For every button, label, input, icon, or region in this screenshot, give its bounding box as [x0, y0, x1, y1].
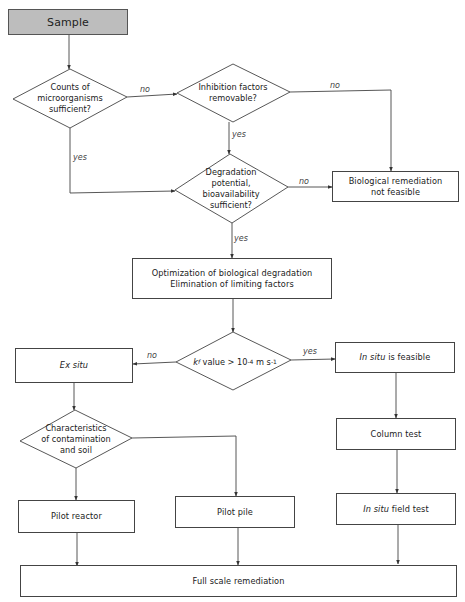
optimization-line-2: Elimination of limiting factors [170, 279, 294, 290]
degradation-line-2: potential, [211, 178, 250, 189]
kvalue-no-label: no [147, 351, 157, 360]
pilot-pile-node: Pilot pile [175, 496, 295, 528]
degradation-line-4: sufficient? [210, 200, 252, 211]
sample-label: Sample [47, 17, 89, 28]
in-situ-node: In situ is feasible [335, 342, 455, 373]
in-situ-label-rest: is feasible [385, 352, 430, 363]
degradation-text: Degradation potential, bioavailability s… [181, 164, 281, 214]
not-feasible-node: Biological remediation not feasible [332, 171, 459, 202]
sample-node: Sample [8, 9, 128, 35]
inhibition-line-2: removable? [209, 93, 257, 104]
degradation-no-label: no [299, 177, 309, 186]
counts-line-1: Counts of [50, 82, 89, 93]
counts-line-3: sufficient? [49, 104, 91, 115]
characteristics-line-1: Characteristics [45, 423, 106, 434]
optimization-line-1: Optimization of biological degradation [152, 268, 313, 279]
counts-no-label: no [140, 85, 150, 94]
characteristics-line-2: of contamination [41, 434, 111, 445]
inhibition-text: Inhibition factors removable? [183, 78, 283, 108]
field-test-label-italic: In situ [363, 504, 389, 515]
degradation-line-1: Degradation [206, 167, 257, 178]
kvalue-yes-label: yes [303, 347, 317, 356]
column-test-label: Column test [371, 429, 422, 440]
inhibition-no-label: no [330, 81, 340, 90]
kvalue-text-main: value > 10 [200, 357, 247, 368]
ex-situ-node: Ex situ [15, 348, 133, 383]
counts-yes-label: yes [73, 153, 87, 162]
not-feasible-line-1: Biological remediation [349, 176, 443, 187]
kvalue-text: kf value > 10-4 m s-1 [180, 354, 290, 370]
pilot-pile-label: Pilot pile [217, 507, 253, 518]
counts-text: Counts of microorganisms sufficient? [20, 78, 120, 118]
ex-situ-label: Ex situ [60, 360, 88, 371]
inhibition-yes-label: yes [232, 130, 246, 139]
column-test-node: Column test [336, 418, 456, 450]
field-test-label-rest: field test [389, 504, 429, 515]
optimization-node: Optimization of biological degradation E… [132, 258, 332, 299]
pilot-reactor-node: Pilot reactor [18, 500, 135, 533]
degradation-yes-label: yes [234, 234, 248, 243]
full-scale-label: Full scale remediation [193, 576, 285, 587]
full-scale-node: Full scale remediation [20, 565, 457, 597]
characteristics-text: Characteristics of contamination and soi… [26, 420, 126, 458]
not-feasible-line-2: not feasible [371, 187, 420, 198]
in-situ-label-italic: In situ [360, 352, 386, 363]
field-test-node: In situ field test [336, 493, 456, 525]
kvalue-unit: m s [253, 357, 270, 368]
degradation-line-3: bioavailability [202, 189, 259, 200]
characteristics-line-3: and soil [60, 445, 92, 456]
pilot-reactor-label: Pilot reactor [51, 511, 102, 522]
inhibition-line-1: Inhibition factors [198, 82, 267, 93]
counts-line-2: microorganisms [37, 93, 102, 104]
